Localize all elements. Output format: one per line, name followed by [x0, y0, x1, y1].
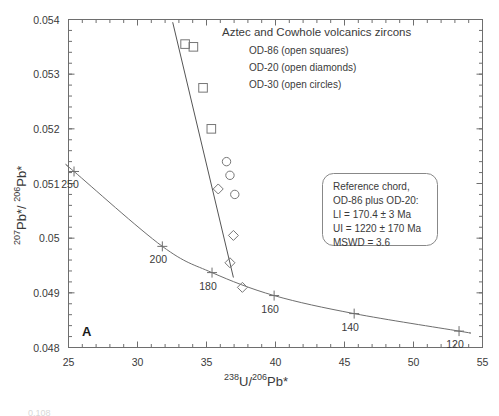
x-axis-tick-labels: 25303540455055: [63, 356, 489, 368]
reference-chord-line-5: MSWD = 3.6: [333, 237, 390, 248]
x-tick-label-35: 35: [201, 356, 213, 368]
x-tick-label-25: 25: [63, 356, 75, 368]
age-marker-180: [207, 268, 217, 278]
y-axis-tick-labels: 0.0480.0490.050.0510.0520.0530.054: [33, 14, 59, 354]
x-axis-title-sup1: 238: [224, 372, 239, 382]
legend-item-od-20: OD-20 (open diamonds): [249, 62, 356, 73]
age-label-160: 160: [261, 303, 279, 315]
age-marker-200: [157, 241, 167, 251]
x-tick-label-30: 30: [132, 356, 144, 368]
x-axis-title: 238U/206Pb*: [224, 372, 288, 389]
data-point-od-30-2: [226, 171, 234, 179]
x-tick-label-50: 50: [408, 356, 420, 368]
reference-chord-line-2: OD-86 plus OD-20:: [333, 195, 419, 206]
data-point-od-30-3: [231, 190, 239, 198]
y-axis-title-sup2: 206: [12, 187, 22, 202]
reference-chord-box: Reference chord, OD-86 plus OD-20: LI = …: [323, 174, 438, 249]
y-tick-label-0.052: 0.052: [33, 123, 59, 135]
x-tick-label-55: 55: [477, 356, 489, 368]
legend-item-od-30: OD-30 (open circles): [249, 79, 341, 90]
age-label-140: 140: [341, 321, 359, 333]
y-axis-title-mid: Pb*/: [14, 202, 29, 230]
y-axis-title: 207Pb*/ 206Pb*: [12, 166, 29, 245]
concordia-diagram-figure: 25303540455055 0.0480.0490.050.0510.0520…: [0, 0, 499, 416]
bottom-edge-artifact: 0.108: [28, 408, 51, 416]
reference-chord-line: [173, 22, 234, 277]
data-point-od-86-3: [199, 84, 208, 93]
legend-item-od-86: OD-86 (open squares): [249, 45, 349, 56]
reference-chord-line-3: LI = 170.4 ± 3 Ma: [333, 209, 411, 220]
x-tick-label-45: 45: [339, 356, 351, 368]
reference-chord-line-4: UI = 1220 ± 170 Ma: [333, 223, 421, 234]
x-axis-title-sup2: 206: [252, 372, 267, 382]
x-axis-title-mid: U/: [239, 374, 252, 389]
y-tick-label-0.048: 0.048: [33, 342, 59, 354]
y-axis-title-sup1: 207: [12, 230, 22, 245]
x-tick-label-40: 40: [270, 356, 282, 368]
y-tick-label-0.051: 0.051: [33, 178, 59, 190]
age-marker-140: [349, 309, 359, 319]
y-tick-label-0.05: 0.05: [39, 232, 60, 244]
chart-canvas: 25303540455055 0.0480.0490.050.0510.0520…: [0, 0, 499, 416]
data-point-od-20-2: [228, 230, 238, 240]
age-label-180: 180: [199, 280, 217, 292]
x-axis-title-tail: Pb*: [267, 374, 288, 389]
chart-legend: OD-86 (open squares) OD-20 (open diamond…: [249, 45, 356, 90]
svg-text:207Pb*/ 206Pb*: 207Pb*/ 206Pb*: [12, 166, 29, 245]
y-tick-label-0.054: 0.054: [33, 14, 59, 26]
y-axis-title-tail: Pb*: [14, 166, 29, 187]
data-point-od-30-1: [222, 157, 230, 165]
svg-text:238U/206Pb*: 238U/206Pb*: [224, 372, 288, 389]
age-label-200: 200: [150, 253, 168, 265]
panel-label: A: [82, 324, 92, 339]
data-point-od-86-1: [181, 40, 190, 49]
reference-chord-line-1: Reference chord,: [333, 181, 410, 192]
y-tick-label-0.049: 0.049: [33, 287, 59, 299]
age-label-250: 250: [61, 178, 79, 190]
age-marker-160: [269, 291, 279, 301]
data-point-od-86-4: [207, 125, 216, 134]
age-label-120: 120: [446, 338, 464, 350]
y-tick-label-0.053: 0.053: [33, 68, 59, 80]
data-point-od-20-1: [213, 184, 223, 194]
data-point-markers: [181, 40, 248, 293]
chart-title: Aztec and Cowhole volcanics zircons: [222, 26, 411, 38]
age-marker-120: [454, 326, 464, 336]
data-point-od-86-2: [189, 43, 198, 52]
